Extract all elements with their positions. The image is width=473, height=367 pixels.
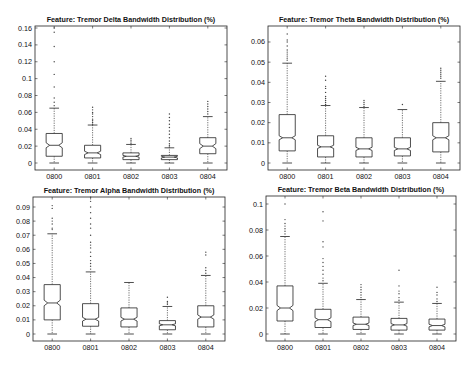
y-tick-label: 0 [261,159,265,168]
y-tick-label: 0.08 [16,217,30,226]
y-tick-label: 0.01 [16,315,30,324]
box-0804: 0804 [433,26,449,181]
x-tick-label: 0801 [83,343,99,352]
x-tick-label: 0803 [159,343,175,352]
chart-beta: Feature: Tremor Beta Bandwidth Distribut… [249,185,456,352]
box-0803: 0803 [161,26,177,181]
y-tick-label: 0.06 [18,108,32,117]
x-tick-label: 0800 [279,172,295,181]
y-tick-label: 0.05 [16,259,30,268]
x-tick-label: 0800 [44,343,60,352]
box-0803: 0803 [159,197,175,352]
y-tick-label: 0.02 [251,118,265,127]
x-tick-label: 0804 [433,172,449,181]
x-tick-label: 0803 [394,172,410,181]
y-tick-label: 0.08 [18,91,32,100]
chart-delta: Feature: Tremor Delta Bandwidth Distribu… [18,15,227,181]
y-tick-label: 0.01 [251,138,265,147]
box-0801: 0801 [315,196,331,352]
x-tick-label: 0802 [121,343,137,352]
chart-alpha: Feature: Tremor Alpha Bandwidth Distribu… [16,186,225,352]
y-tick-label: 0.04 [16,273,30,282]
x-tick-label: 0801 [85,172,101,181]
box-0802: 0802 [121,197,137,352]
y-tick-label: 0 [259,330,263,339]
y-tick-label: 0.08 [249,226,263,235]
x-tick-label: 0803 [391,343,407,352]
box-0802: 0802 [356,26,372,181]
y-tick-label: 0.14 [18,40,32,49]
chart-theta: Feature: Tremor Theta Bandwidth Distribu… [251,15,460,181]
box-0802: 0802 [353,196,369,352]
y-tick-label: 0.02 [18,142,32,151]
x-tick-label: 0804 [198,343,214,352]
y-tick-label: 0.04 [251,78,265,87]
x-tick-label: 0804 [200,172,216,181]
box-0802: 0802 [123,26,139,181]
box-0800: 0800 [46,26,62,181]
y-tick-label: 0.06 [16,245,30,254]
box-0800: 0800 [44,197,60,352]
y-tick-label: 0.16 [18,24,32,33]
y-tick-label: 0.04 [249,278,263,287]
box-0804: 0804 [198,197,214,352]
y-tick-label: 0.1 [253,200,263,209]
box-0803: 0803 [394,26,410,181]
x-tick-label: 0802 [356,172,372,181]
y-tick-label: 0.04 [18,125,32,134]
y-tick-label: 0.06 [249,252,263,261]
y-tick-label: 0.05 [251,58,265,67]
y-tick-label: 0.03 [251,98,265,107]
y-tick-label: 0.07 [16,231,30,240]
y-tick-label: 0.12 [18,57,32,66]
chart-title: Feature: Tremor Alpha Bandwidth Distribu… [44,186,215,195]
y-tick-label: 0.1 [22,74,32,83]
x-tick-label: 0801 [318,172,334,181]
y-tick-label: 0.02 [249,304,263,313]
y-tick-label: 0 [28,159,32,168]
x-tick-label: 0801 [315,343,331,352]
box-0801: 0801 [318,26,334,181]
x-tick-label: 0802 [353,343,369,352]
x-tick-label: 0800 [277,343,293,352]
chart-title: Feature: Tremor Delta Bandwidth Distribu… [47,15,216,24]
x-tick-label: 0802 [123,172,139,181]
box-0803: 0803 [391,196,407,352]
y-tick-label: 0.02 [16,301,30,310]
chart-title: Feature: Tremor Beta Bandwidth Distribut… [278,185,445,194]
y-tick-label: 0.03 [16,287,30,296]
box-0801: 0801 [83,196,99,352]
figure-canvas: Feature: Tremor Delta Bandwidth Distribu… [0,0,473,367]
box-0800: 0800 [277,196,293,352]
axes-frame [35,26,227,170]
x-tick-label: 0803 [161,172,177,181]
box-0804: 0804 [200,26,216,181]
y-tick-label: 0.06 [251,37,265,46]
chart-title: Feature: Tremor Theta Bandwidth Distribu… [279,15,450,24]
box-0800: 0800 [279,26,295,181]
box-0801: 0801 [85,26,101,181]
y-tick-label: 0.09 [16,203,30,212]
x-tick-label: 0800 [46,172,62,181]
x-tick-label: 0804 [429,343,445,352]
y-tick-label: 0 [26,330,30,339]
box-0804: 0804 [429,196,445,352]
